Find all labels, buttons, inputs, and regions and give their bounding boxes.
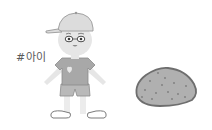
illustration-scene: #아이	[0, 0, 212, 130]
left-shoe	[51, 111, 71, 118]
stone-body	[136, 68, 196, 106]
cap	[58, 13, 93, 31]
right-eye	[80, 38, 83, 41]
child-figure	[44, 12, 106, 118]
child-and-stone-drawing	[0, 0, 212, 130]
right-shoe	[87, 111, 106, 118]
left-eye	[68, 38, 71, 41]
shorts	[60, 84, 90, 96]
cap-button	[75, 12, 77, 14]
stone	[136, 68, 196, 106]
